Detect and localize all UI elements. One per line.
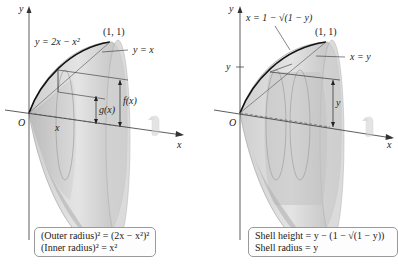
right-panel: y x O x = 1 − √(1 − y) x = y (1, 1) y y: [214, 3, 394, 245]
left-y-axis-label: y: [18, 3, 24, 14]
left-line-label: y = x: [132, 44, 154, 55]
left-caption-line2: (Inner radius)² = x²: [41, 242, 149, 254]
right-curve-leader: [275, 26, 290, 50]
right-caption-box: Shell height = y − (1 − √(1 − y)) Shell …: [248, 227, 398, 257]
left-panel: y x O y = 2x − x² y = x (1, 1) g(x) f(x)…: [5, 3, 184, 245]
left-gx-label: g(x): [99, 104, 116, 116]
right-shell: [265, 72, 327, 205]
left-curve-label: y = 2x − x²: [34, 36, 81, 47]
left-x-tick-label: x: [54, 122, 60, 133]
left-x-axis-label: x: [176, 139, 182, 150]
left-x-axis-arrow: [176, 131, 185, 137]
right-caption-line2: Shell radius = y: [255, 242, 391, 254]
left-y-axis-arrow: [27, 6, 32, 13]
right-y-axis-arrow: [238, 6, 243, 13]
right-line-label: x = y: [349, 51, 371, 62]
right-x-axis-label: x: [386, 139, 392, 150]
left-caption-line1: (Outer radius)² = (2x − x²)²: [41, 230, 149, 242]
left-caption-box: (Outer radius)² = (2x − x²)² (Inner radi…: [34, 227, 156, 257]
left-point-label: (1, 1): [103, 26, 125, 38]
right-y-axis-label: y: [228, 3, 234, 14]
left-fx-label: f(x): [123, 95, 138, 107]
left-origin-label: O: [18, 117, 25, 128]
right-point-label: (1, 1): [315, 26, 337, 38]
left-end-cap: [106, 40, 130, 240]
right-caption-line1: Shell height = y − (1 − √(1 − y)): [255, 230, 391, 242]
right-curve-label: x = 1 − √(1 − y): [245, 12, 313, 24]
right-origin-label: O: [229, 117, 236, 128]
left-rotation-arrow-icon: [148, 116, 159, 136]
right-y-tick-label: y: [225, 61, 231, 72]
right-height-label: y: [335, 97, 341, 108]
